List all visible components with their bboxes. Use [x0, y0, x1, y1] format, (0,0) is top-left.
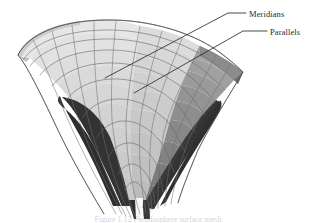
surface-body — [18, 13, 267, 220]
figure-caption: Figure 1.12 Pseudosphere surface mesh — [0, 215, 316, 223]
pseudosphere-surface-graphic — [0, 0, 316, 223]
callout-label-meridians: Meridians — [249, 10, 284, 19]
callout-label-parallels: Parallels — [270, 28, 300, 37]
figure-container: Meridians Parallels Figure 1.12 Pseudosp… — [0, 0, 316, 223]
